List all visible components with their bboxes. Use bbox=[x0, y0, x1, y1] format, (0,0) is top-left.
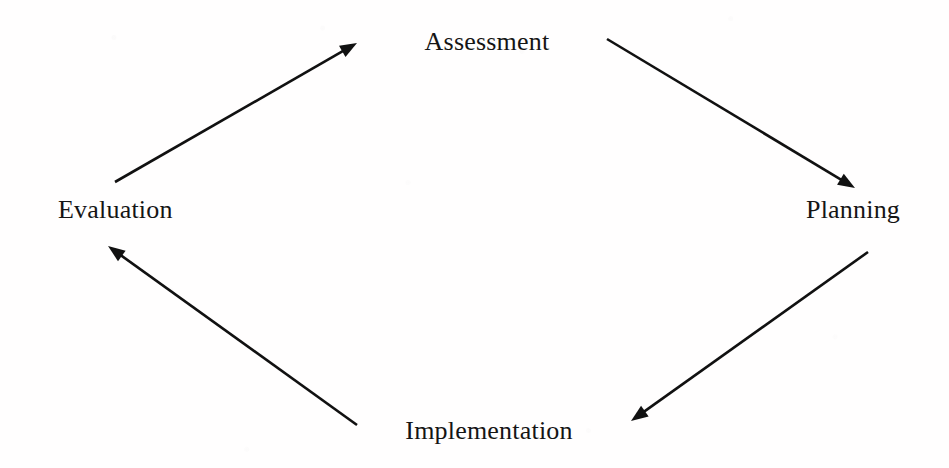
node-label-implementation[interactable]: Implementation bbox=[405, 418, 572, 444]
arrow-layer bbox=[0, 0, 949, 468]
arrow-shaft bbox=[642, 252, 868, 413]
arrow-evaluation-to-assessment bbox=[115, 43, 357, 182]
arrow-planning-to-implementation bbox=[631, 252, 868, 421]
arrow-implementation-to-evaluation bbox=[108, 246, 357, 425]
arrow-shaft bbox=[115, 50, 345, 182]
diagram-canvas: Assessment Planning Implementation Evalu… bbox=[0, 0, 949, 468]
arrowhead-icon bbox=[837, 174, 855, 188]
node-label-evaluation[interactable]: Evaluation bbox=[58, 197, 173, 223]
node-label-assessment[interactable]: Assessment bbox=[425, 29, 550, 55]
node-label-planning[interactable]: Planning bbox=[806, 197, 900, 223]
arrow-shaft bbox=[607, 39, 843, 181]
arrow-shaft bbox=[119, 254, 357, 425]
arrowhead-icon bbox=[339, 43, 357, 57]
arrowhead-icon bbox=[631, 406, 649, 421]
arrowhead-icon bbox=[108, 246, 126, 261]
arrow-assessment-to-planning bbox=[607, 39, 855, 188]
